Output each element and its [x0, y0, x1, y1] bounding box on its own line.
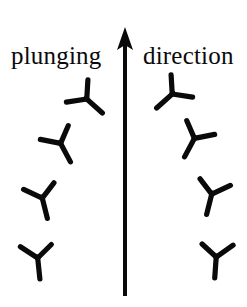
lineation-symbol-right-1	[147, 74, 193, 120]
lineation-symbol-right-4	[200, 243, 233, 279]
direction-label: direction	[143, 43, 234, 68]
lineation-symbol-right-3-stroke-2	[212, 181, 231, 197]
lineation-symbol-left-4	[20, 244, 54, 281]
lineation-symbol-left-4-stroke-2	[20, 245, 37, 260]
lineation-symbol-right-3-stroke-3	[197, 179, 214, 194]
lineation-symbol-right-3	[192, 178, 230, 218]
lineation-symbol-left-3-stroke-3	[39, 183, 56, 198]
lineation-symbol-right-4-stroke-2	[216, 244, 233, 258]
upward-arrow	[117, 27, 133, 296]
left-symbol-group	[20, 79, 112, 280]
lineation-symbol-right-1-stroke-2	[172, 85, 192, 106]
lineation-symbol-right-1-stroke-3	[162, 75, 181, 94]
lineation-symbol-right-4-stroke-3	[201, 244, 217, 257]
lineation-symbol-left-1-stroke-2	[66, 90, 86, 111]
lineation-symbol-left-3-stroke-2	[24, 185, 43, 201]
lineation-symbol-left-1	[66, 79, 112, 125]
right-symbol-group	[147, 74, 233, 279]
plunging-label: plunging	[11, 43, 102, 68]
lineation-symbol-right-2	[171, 120, 214, 165]
lineation-symbol-left-4-stroke-3	[36, 245, 52, 259]
lineation-symbol-left-3	[24, 182, 62, 222]
lineation-symbol-left-2-stroke-2	[40, 132, 60, 151]
lineation-symbol-right-2-stroke-2	[194, 127, 214, 146]
plunging-direction-figure: plunging direction	[0, 0, 247, 307]
lineation-symbol-left-1-stroke-3	[78, 80, 97, 99]
lineation-symbol-left-2	[40, 125, 83, 170]
